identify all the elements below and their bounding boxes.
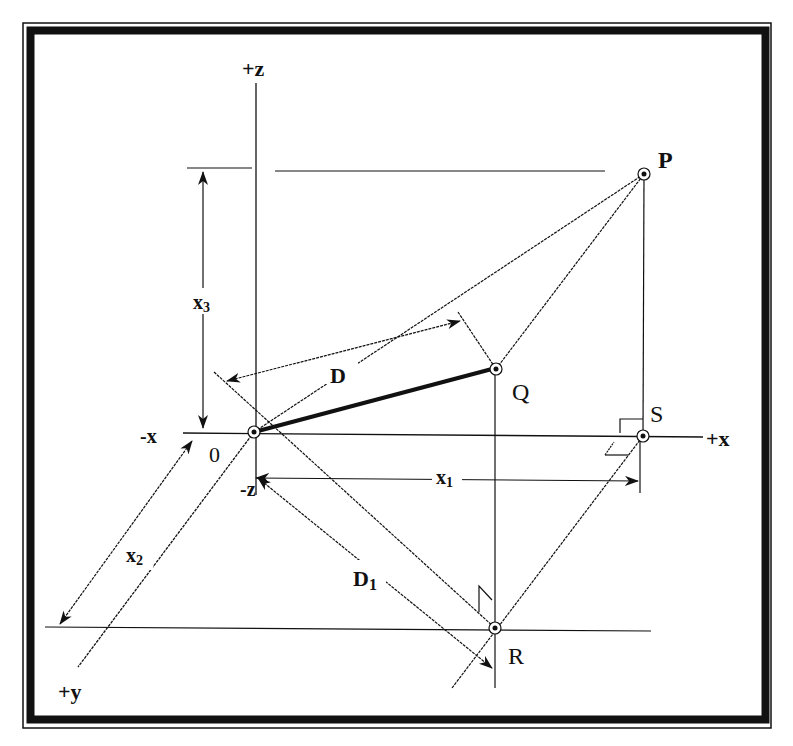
- label-P: P: [658, 147, 673, 173]
- segment-O-Q: [258, 369, 492, 431]
- point-R: [489, 622, 501, 634]
- label-S: S: [650, 401, 663, 427]
- line-R-S: [452, 436, 643, 688]
- x2-arrow: [60, 441, 192, 624]
- x-axis: [183, 433, 703, 437]
- points: [248, 168, 650, 634]
- frame: [23, 23, 771, 728]
- point-Q: [490, 363, 502, 375]
- point-S: [637, 430, 649, 442]
- label-D: D: [330, 363, 346, 388]
- label-R: R: [508, 643, 524, 669]
- label-pos-y: +y: [58, 679, 82, 704]
- line-O-P: [254, 174, 644, 432]
- label-neg-x: -x: [140, 425, 157, 447]
- axis-labels: +z -z +x -x +y 0: [58, 56, 730, 704]
- label-pos-x: +x: [706, 426, 730, 451]
- line-Q-P: [496, 174, 644, 369]
- construction-lines: [45, 168, 651, 688]
- label-pos-z: +z: [242, 56, 265, 81]
- dimension-arrows: [60, 172, 638, 668]
- point-labels: P Q S R: [508, 147, 673, 669]
- point-origin: [248, 426, 260, 438]
- label-neg-z: -z: [240, 478, 256, 500]
- coordinate-diagram: +z -z +x -x +y 0 P Q S R x3 x1 x2 D D1: [0, 0, 793, 746]
- label-origin: 0: [209, 442, 220, 467]
- tick-Q: [458, 312, 496, 369]
- point-P: [638, 168, 650, 180]
- y-axis: [78, 432, 254, 667]
- line-P-S: [643, 174, 644, 436]
- dimension-labels: x3 x1 x2 D D1: [126, 291, 453, 593]
- label-Q: Q: [512, 379, 529, 405]
